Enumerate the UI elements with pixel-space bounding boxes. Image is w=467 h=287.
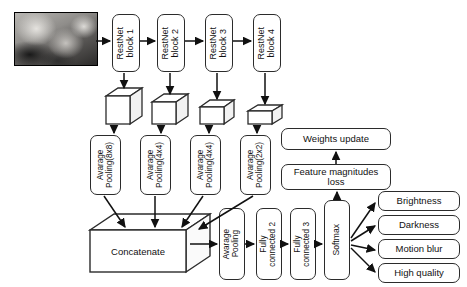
average-pooling-4x4-b: Avarage Pooling(4x4) bbox=[190, 135, 221, 195]
average-pooling-4x4-a-label: Avarage Pooling(4x4) bbox=[147, 142, 165, 188]
resnet-block-1-label: RestNet block 1 bbox=[116, 27, 135, 60]
output-brightness: Brightness bbox=[378, 191, 460, 211]
output-brightness-label: Brightness bbox=[397, 196, 442, 206]
resnet-block-2-label: RestNet block 2 bbox=[161, 27, 180, 60]
feature-map-1-cube bbox=[104, 86, 144, 126]
input-image-thumbnail bbox=[14, 12, 98, 66]
head-average-pooling: Avarage Pooling bbox=[219, 208, 245, 280]
feature-map-3-cube bbox=[198, 98, 236, 126]
output-darkness-label: Darkness bbox=[399, 220, 439, 230]
average-pooling-8x8-label: Avarage Pooling(8x8) bbox=[97, 142, 115, 188]
fully-connected-2-label: Fully connected 2 bbox=[260, 222, 278, 267]
feature-map-4-cube bbox=[246, 103, 284, 126]
average-pooling-8x8: Avarage Pooling(8x8) bbox=[90, 135, 121, 195]
feature-magnitudes-loss-box: Feature magnitudes loss bbox=[281, 164, 391, 190]
average-pooling-2x2-label: Avarage Pooling(2x2) bbox=[247, 142, 265, 188]
weights-update-box: Weights update bbox=[281, 128, 391, 150]
output-motion-blur: Motion blur bbox=[378, 239, 460, 259]
output-motion-blur-label: Motion blur bbox=[396, 244, 443, 254]
resnet-block-4-label: RestNet block 4 bbox=[257, 27, 276, 60]
resnet-block-3-label: RestNet block 3 bbox=[209, 27, 228, 60]
feature-magnitudes-loss-label: Feature magnitudes loss bbox=[294, 167, 379, 188]
resnet-block-3: RestNet block 3 bbox=[205, 14, 233, 72]
weights-update-label: Weights update bbox=[303, 134, 369, 144]
output-darkness: Darkness bbox=[378, 215, 460, 235]
resnet-block-4: RestNet block 4 bbox=[253, 14, 281, 72]
average-pooling-4x4-a: Avarage Pooling(4x4) bbox=[140, 135, 171, 195]
output-high-quality-label: High quality bbox=[394, 268, 444, 278]
average-pooling-2x2: Avarage Pooling(2x2) bbox=[240, 135, 271, 195]
diagram-canvas: RestNet block 1 RestNet block 2 RestNet … bbox=[0, 0, 467, 287]
average-pooling-4x4-b-label: Avarage Pooling(4x4) bbox=[197, 142, 215, 188]
feature-map-2-cube bbox=[150, 92, 190, 126]
fully-connected-3: Fully connected 3 bbox=[290, 208, 316, 280]
head-average-pooling-label: Avarage Pooling bbox=[223, 229, 241, 259]
softmax-block: Softmax bbox=[324, 200, 350, 280]
fully-connected-2: Fully connected 2 bbox=[256, 208, 282, 280]
output-high-quality: High quality bbox=[378, 263, 460, 283]
concatenate-box: Concatenate bbox=[88, 212, 212, 276]
softmax-label: Softmax bbox=[332, 224, 341, 256]
resnet-block-2: RestNet block 2 bbox=[157, 14, 185, 72]
resnet-block-1: RestNet block 1 bbox=[112, 14, 140, 72]
fully-connected-3-label: Fully connected 3 bbox=[294, 222, 312, 267]
